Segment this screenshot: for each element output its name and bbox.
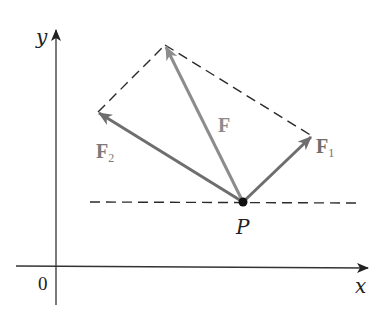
x-axis: [16, 266, 368, 268]
point-p-dot: [239, 198, 248, 207]
vector-f-label: F: [218, 114, 230, 136]
vector-f1-subscript: 1: [328, 146, 334, 160]
vector-f2-label-main: F: [96, 140, 108, 162]
dashed-side-f2-to-f: [98, 45, 165, 112]
vector-diagram: y 0 x P F F1 F2: [0, 0, 383, 325]
x-axis-label: x: [355, 274, 366, 298]
vector-f2-subscript: 2: [108, 151, 114, 165]
vector-f1-label: F1: [316, 135, 334, 160]
horizontal-dashed-line: [90, 202, 356, 203]
origin-label: 0: [38, 273, 48, 294]
vector-f1-label-main: F: [316, 135, 328, 157]
vector-f2-label: F2: [96, 140, 114, 165]
point-p-label: P: [235, 215, 250, 239]
y-axis-label: y: [35, 25, 48, 49]
vector-f1-arrow: [243, 137, 311, 202]
